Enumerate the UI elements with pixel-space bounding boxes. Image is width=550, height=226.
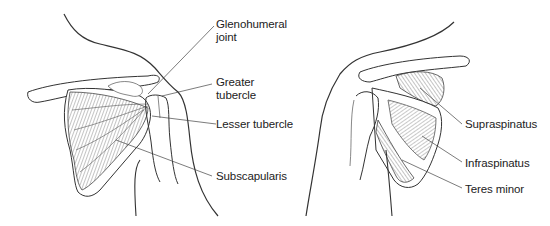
label-greater-tubercle: Greater tubercle bbox=[216, 76, 256, 102]
label-line: Greater bbox=[216, 76, 256, 89]
label-line: Teres minor bbox=[465, 183, 524, 196]
label-line: Glenohumeral bbox=[216, 18, 287, 31]
label-subscapularis: Subscapularis bbox=[216, 170, 287, 183]
anterior-shoulder-view bbox=[28, 14, 218, 216]
label-lesser-tubercle: Lesser tubercle bbox=[216, 118, 293, 131]
label-infraspinatus: Infraspinatus bbox=[465, 157, 530, 170]
label-line: Lesser tubercle bbox=[216, 118, 293, 131]
label-line: Subscapularis bbox=[216, 170, 287, 183]
label-supraspinatus: Supraspinatus bbox=[465, 118, 537, 131]
label-line: joint bbox=[216, 31, 287, 44]
label-line: Infraspinatus bbox=[465, 157, 530, 170]
label-glenohumeral-joint: Glenohumeral joint bbox=[216, 18, 287, 44]
label-line: Supraspinatus bbox=[465, 118, 537, 131]
rotator-cuff-diagram: Glenohumeral joint Greater tubercle Less… bbox=[0, 0, 550, 226]
label-line: tubercle bbox=[216, 89, 256, 102]
posterior-shoulder-view bbox=[306, 22, 469, 216]
label-teres-minor: Teres minor bbox=[465, 183, 524, 196]
